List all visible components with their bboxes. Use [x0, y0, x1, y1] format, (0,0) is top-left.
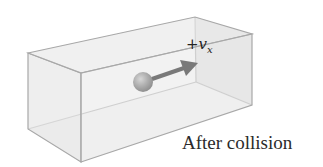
figure-caption: After collision [182, 132, 292, 154]
